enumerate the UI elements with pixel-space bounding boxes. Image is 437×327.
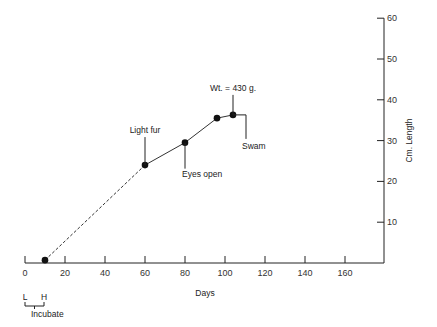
y-tick-label: 50: [387, 54, 397, 64]
incubate-label: Incubate: [31, 309, 64, 319]
incubate-bracket: [25, 302, 44, 306]
x-tick-label: 140: [297, 268, 312, 278]
x-tick-label: 20: [60, 268, 70, 278]
dashed-line: [45, 165, 145, 260]
annotation-weight: Wt. = 430 g.: [210, 83, 256, 93]
y-tick-label: 30: [387, 136, 397, 146]
y-tick-label: 60: [387, 13, 397, 23]
y-tick-label: 20: [387, 176, 397, 186]
data-point: [42, 257, 49, 264]
solid-line: [145, 115, 233, 165]
y-tick-label: 10: [387, 217, 397, 227]
x-tick-label: 80: [180, 268, 190, 278]
y-tick-label: 40: [387, 95, 397, 105]
x-tick-label: 160: [337, 268, 352, 278]
y-axis-label: Cm. Length: [404, 118, 414, 162]
annotation-light-fur: Light fur: [130, 125, 161, 135]
x-tick-label: 40: [100, 268, 110, 278]
x-tick-label: 100: [217, 268, 232, 278]
incubate-start-label: L: [23, 292, 28, 302]
x-tick-label: 60: [140, 268, 150, 278]
x-tick-label: 120: [257, 268, 272, 278]
annotation-swam: Swam: [242, 141, 266, 151]
data-point: [214, 115, 221, 122]
x-tick-label: 0: [22, 268, 27, 278]
x-axis-label: Days: [195, 288, 214, 298]
chart: 020406080100120140160102030405060DaysCm.…: [0, 0, 437, 327]
incubate-end-label: H: [41, 292, 47, 302]
annotation-eyes-open: Eyes open: [182, 169, 222, 179]
